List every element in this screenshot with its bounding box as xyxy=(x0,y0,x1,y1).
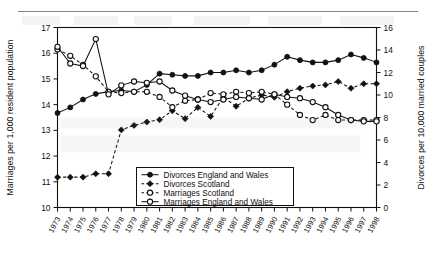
y-axis-tick-label: 10 xyxy=(41,203,51,213)
legend-layer: Divorces England and WalesDivorces Scotl… xyxy=(137,168,294,207)
series-point xyxy=(323,60,328,65)
series-2 xyxy=(55,47,379,123)
series-point xyxy=(67,174,73,180)
series-point xyxy=(93,171,99,177)
series-point xyxy=(285,94,290,99)
legend-label: Marriages Scotland xyxy=(164,189,235,198)
legend-label: Divorces England and Wales xyxy=(164,171,269,180)
series-point xyxy=(246,96,251,101)
legend-marker xyxy=(147,199,152,204)
y-axis-tick-label: 16 xyxy=(41,48,51,58)
series-point xyxy=(170,105,175,110)
series-point xyxy=(322,82,328,88)
series-point xyxy=(157,79,162,84)
series-point xyxy=(348,52,353,57)
y-axis-tick-label: 14 xyxy=(41,100,51,110)
y-axis-tick-label: 12 xyxy=(41,151,51,161)
series-point xyxy=(374,119,379,124)
scan-showthrough-middle xyxy=(60,118,360,152)
series-point xyxy=(323,112,328,117)
series-layer xyxy=(55,36,380,180)
series-point xyxy=(183,93,188,98)
series-point xyxy=(323,105,328,110)
series-point xyxy=(297,112,302,117)
y-axis-tick-label: 11 xyxy=(42,177,51,187)
series-point xyxy=(272,62,277,67)
series-point xyxy=(119,83,124,88)
y2-axis-tick-label: 4 xyxy=(384,158,389,168)
figure-container: 1011121314151617024681012141619731974197… xyxy=(0,0,434,256)
series-point xyxy=(361,55,366,60)
series-point xyxy=(374,60,379,65)
series-point xyxy=(68,61,73,66)
series-point xyxy=(93,36,98,41)
y-axis-title: Marriages per 1,000 resident population xyxy=(5,39,15,195)
series-point xyxy=(361,119,366,124)
series-point xyxy=(272,92,277,97)
series-point xyxy=(221,70,226,75)
series-point xyxy=(93,74,98,79)
series-point xyxy=(183,98,188,103)
series-point xyxy=(170,72,175,77)
legend-marker xyxy=(148,172,153,177)
series-point xyxy=(310,83,316,89)
x-axis-tick-label: 1998 xyxy=(366,215,382,234)
y2-axis-tick-label: 14 xyxy=(384,45,394,55)
series-point xyxy=(246,70,251,75)
series-point xyxy=(336,112,341,117)
series-point xyxy=(55,111,60,116)
series-point xyxy=(361,81,367,87)
legend-marker xyxy=(147,190,152,195)
series-point xyxy=(348,85,354,91)
series-point xyxy=(157,71,162,76)
y-axis-tick-label: 15 xyxy=(41,74,51,84)
series-point xyxy=(374,81,380,87)
y2-axis-title: Divorces per 10,000 married couples xyxy=(416,46,426,190)
series-point xyxy=(285,102,290,107)
series-point xyxy=(106,92,111,97)
series-point xyxy=(183,73,188,78)
series-point xyxy=(259,97,264,102)
y2-axis-tick-label: 2 xyxy=(384,180,389,190)
series-point xyxy=(80,174,86,180)
series-point xyxy=(55,44,60,49)
series-point xyxy=(259,89,264,94)
series-point xyxy=(157,94,162,99)
series-point xyxy=(297,58,302,63)
series-point xyxy=(259,68,264,73)
series-point xyxy=(80,63,85,68)
series-point xyxy=(310,60,315,65)
series-point xyxy=(234,89,239,94)
series-point xyxy=(93,91,98,96)
series-point xyxy=(234,68,239,73)
series-point xyxy=(221,92,226,97)
y2-axis-tick-label: 8 xyxy=(384,113,389,123)
y2-axis-tick-label: 12 xyxy=(384,68,394,78)
series-point xyxy=(144,89,149,94)
series-point xyxy=(131,89,136,94)
series-point xyxy=(144,80,149,85)
series-point xyxy=(170,88,175,93)
legend-label: Divorces Scotland xyxy=(164,180,230,189)
page-rule-divider xyxy=(18,11,418,12)
series-point xyxy=(131,79,136,84)
series-point xyxy=(221,97,226,102)
series-point xyxy=(68,53,73,58)
y2-axis-tick-label: 10 xyxy=(384,90,394,100)
series-point xyxy=(284,89,290,95)
scan-showthrough-top xyxy=(22,16,414,25)
y-axis-tick-label: 13 xyxy=(41,125,51,135)
series-point xyxy=(106,171,112,177)
series-point xyxy=(336,58,341,63)
series-point xyxy=(195,97,200,102)
series-point xyxy=(208,99,213,104)
series-point xyxy=(81,97,86,102)
series-point xyxy=(208,70,213,75)
series-3 xyxy=(55,36,379,123)
y2-axis-tick-label: 0 xyxy=(384,203,389,213)
series-point xyxy=(285,54,290,59)
y2-axis-tick-label: 6 xyxy=(384,135,389,145)
series-point xyxy=(310,99,315,104)
series-line xyxy=(58,39,377,121)
legend-label: Marriages England and Wales xyxy=(164,198,273,207)
